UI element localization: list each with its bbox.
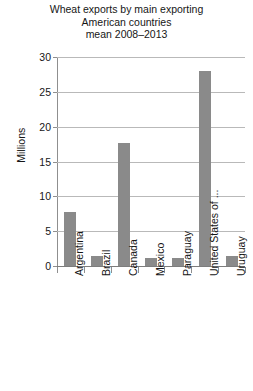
y-axis-tick-label: 20 xyxy=(5,122,51,133)
x-axis-tick-label: Argentina xyxy=(74,231,85,276)
gridline xyxy=(57,92,245,93)
y-axis-tick-labels: 051015202530 xyxy=(0,0,51,391)
gridline xyxy=(57,127,245,128)
y-axis-tick-label: 0 xyxy=(5,261,51,272)
x-axis-tick-mark xyxy=(57,267,58,273)
y-axis-tick-label: 25 xyxy=(5,87,51,98)
x-axis: ArgentinaBrazilCanadaMexicoParaguayUnite… xyxy=(57,266,245,391)
x-axis-tick-label: Canada xyxy=(128,239,139,276)
x-axis-tick-label: Mexico xyxy=(155,243,166,276)
x-axis-tick-label: United States of ... xyxy=(209,190,220,276)
x-axis-tick-label: Uruguay xyxy=(236,236,247,276)
y-axis-tick-label: 15 xyxy=(5,157,51,168)
y-axis-tick-label: 5 xyxy=(5,226,51,237)
x-axis-tick-label: Paraguay xyxy=(182,231,193,276)
x-axis-tick-label: Brazil xyxy=(101,250,112,276)
gridline xyxy=(57,162,245,163)
bar-chart: Wheat exports by main exporting American… xyxy=(0,0,253,391)
gridline xyxy=(57,57,245,58)
y-axis-tick-label: 30 xyxy=(5,52,51,63)
y-axis-tick-label: 10 xyxy=(5,191,51,202)
